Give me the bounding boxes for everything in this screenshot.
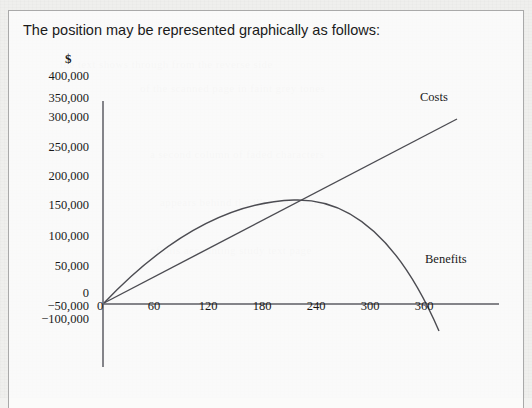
y-tick-label: 400,000	[21, 69, 89, 84]
series-label-benefits: Benefits	[425, 252, 467, 267]
x-tick-label: 0	[80, 299, 120, 314]
y-tick-label: 250,000	[21, 140, 89, 155]
x-tick-label: 60	[134, 299, 174, 314]
x-tick-label: 300	[350, 299, 390, 314]
y-tick-label: 50,000	[21, 259, 89, 274]
y-tick-label: −100,000	[21, 312, 89, 327]
x-tick-label: 240	[296, 299, 336, 314]
series-label-costs: Costs	[420, 90, 448, 105]
y-tick-label: 100,000	[21, 229, 89, 244]
x-tick-label: 120	[188, 299, 228, 314]
y-tick-label: 350,000	[21, 91, 89, 106]
y-tick-label: 300,000	[21, 110, 89, 125]
chart-area: $ 400,000 350,000 300,000 250,000 200,00…	[9, 11, 524, 399]
series-line-costs	[104, 119, 457, 303]
y-axis-currency-symbol: $	[65, 51, 72, 67]
y-tick-label: 150,000	[21, 198, 89, 213]
x-tick-label: 180	[242, 299, 282, 314]
y-tick-label: 200,000	[21, 169, 89, 184]
figure-panel: The position may be represented graphica…	[8, 10, 524, 408]
x-tick-label: 360	[404, 299, 444, 314]
